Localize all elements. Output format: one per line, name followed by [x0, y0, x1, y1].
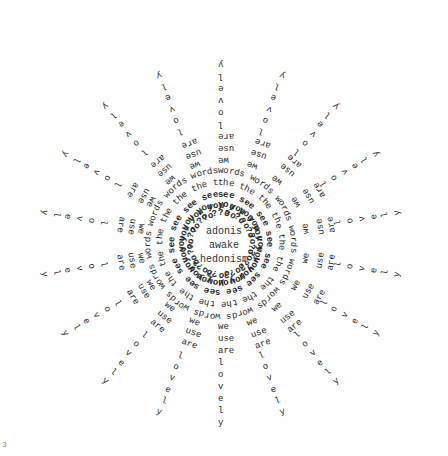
- ray-5-word: e: [369, 267, 379, 274]
- ray-16-word: y: [100, 100, 110, 110]
- ray-9-word: v: [218, 383, 223, 392]
- ray-0-word: y: [218, 59, 223, 68]
- page-number: 3: [2, 440, 7, 449]
- center-line-2: awake: [0, 240, 448, 251]
- ray-0-word: are: [218, 131, 234, 140]
- ray-5-word: l: [381, 269, 391, 276]
- ray-10-word: v: [167, 374, 175, 384]
- ray-12-word: o: [101, 305, 111, 314]
- ray-16-word: e: [115, 119, 125, 129]
- ray-8-word: o: [262, 362, 270, 372]
- ray-3-word: y: [371, 149, 381, 158]
- ray-13-word: e: [62, 267, 72, 274]
- ray-13-word: y: [39, 271, 49, 278]
- ray-0-word: o: [218, 107, 223, 116]
- ring-3-char: t: [212, 179, 218, 188]
- ray-11-word: o: [131, 339, 141, 349]
- ray-16-word: l: [139, 146, 149, 156]
- ray-11-word: l: [139, 330, 149, 340]
- ray-10-word: l: [176, 351, 184, 361]
- ray-17-word: y: [155, 69, 163, 79]
- ray-15-word: v: [91, 167, 101, 176]
- ray-9-word: y: [218, 419, 223, 428]
- ray-15-word: l: [70, 155, 80, 164]
- ray-1-word: we: [246, 158, 259, 170]
- ray-10-word: l: [159, 396, 167, 406]
- ray-17-word: o: [171, 114, 179, 124]
- ray-1-word: y: [278, 69, 286, 79]
- ray-3-word: v: [340, 167, 350, 176]
- ray-1-word: o: [262, 114, 270, 124]
- ray-3-word: we: [290, 195, 303, 209]
- ray-6-word: l: [361, 323, 371, 332]
- ray-16-word: o: [131, 137, 141, 147]
- ray-10-word: are: [180, 338, 198, 352]
- ray-6-word: y: [371, 329, 381, 338]
- ray-3-word: l: [319, 179, 329, 188]
- ray-0-word: e: [218, 83, 223, 92]
- ray-11-word: y: [100, 376, 110, 386]
- ray-0-word: we: [218, 155, 229, 164]
- ray-6-word: v: [340, 311, 350, 320]
- ray-9-word: use: [218, 335, 234, 344]
- ray-2-word: y: [331, 100, 341, 110]
- ray-11-word: l: [108, 367, 118, 377]
- ray-14-word: y: [39, 209, 49, 216]
- ray-17-word: l: [159, 80, 167, 90]
- ray-9-word: l: [218, 407, 223, 416]
- ring-2-char: [220, 287, 226, 296]
- ring-4-char: o: [209, 310, 215, 320]
- ray-8-word: v: [266, 374, 274, 384]
- ray-12-word: y: [60, 329, 70, 338]
- center-line-1: adonis: [0, 226, 448, 237]
- ray-0-word: l: [218, 119, 223, 128]
- ray-7-word: e: [316, 358, 326, 368]
- ray-2-word: v: [308, 128, 318, 138]
- ray-4-word: y: [393, 209, 403, 216]
- ray-2-word: e: [316, 119, 326, 129]
- ray-15-word: y: [60, 149, 70, 158]
- ray-6-word: l: [319, 299, 329, 308]
- ray-11-word: v: [123, 349, 133, 359]
- ray-8-word: l: [258, 351, 266, 361]
- ray-9-word: e: [218, 395, 223, 404]
- ray-8-word: l: [274, 396, 282, 406]
- ray-7-word: y: [331, 376, 341, 386]
- ray-9-word: we: [218, 323, 229, 332]
- ray-8-word: are: [254, 338, 272, 352]
- ray-14-word: o: [86, 217, 96, 224]
- ray-15-word: e: [80, 161, 90, 170]
- ray-7-word: l: [324, 367, 334, 377]
- ray-9-word: l: [218, 359, 223, 368]
- center-line-3: hedonism: [0, 254, 448, 265]
- ray-8-word: y: [278, 407, 286, 417]
- ray-3-word: o: [330, 173, 340, 182]
- ray-16-word: v: [123, 128, 133, 138]
- ray-3-word: e: [351, 161, 361, 170]
- ray-17-word: l: [176, 126, 184, 136]
- ray-14-word: e: [62, 213, 72, 220]
- ray-12-word: e: [80, 317, 90, 326]
- ray-0-word: v: [218, 95, 223, 104]
- ray-7-word: v: [308, 349, 318, 359]
- ray-17-word: v: [167, 103, 175, 113]
- ray-7-word: o: [301, 339, 311, 349]
- ray-13-word: l: [50, 269, 60, 276]
- ray-8-word: e: [270, 385, 278, 395]
- ray-16-word: l: [108, 110, 118, 120]
- ray-12-word: l: [112, 299, 122, 308]
- ray-13-word: v: [74, 265, 84, 272]
- ray-2-word: o: [301, 137, 311, 147]
- ray-4-word: v: [358, 215, 368, 222]
- ray-1-word: e: [270, 92, 278, 102]
- ray-9-word: o: [218, 371, 223, 380]
- ray-0-word: l: [218, 71, 223, 80]
- ring-3-char: e: [221, 299, 227, 308]
- ring-4-char: s: [212, 167, 218, 176]
- ray-14-word: l: [50, 211, 60, 218]
- ray-0-word: use: [218, 143, 234, 152]
- ray-1-word: l: [258, 126, 266, 136]
- ray-12-word: v: [91, 311, 101, 320]
- ray-5-word: v: [358, 265, 368, 272]
- ray-2-word: we: [270, 172, 284, 186]
